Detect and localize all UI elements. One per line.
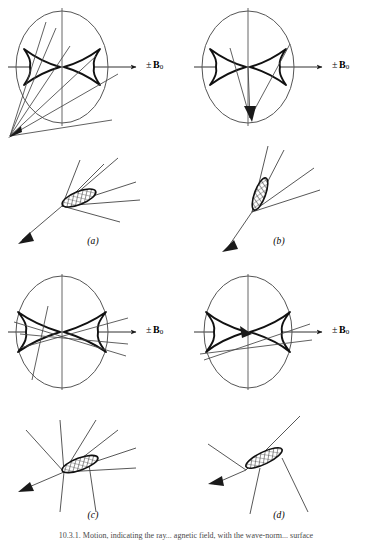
b-field-subscript: 0 [346,63,350,71]
lower-arrowhead [18,482,34,492]
panel-d: ±B0 (d) [186,262,372,517]
b-field-symbol: B [152,59,160,70]
cusp-lobe-left [24,49,60,85]
cusp-lobe-right [250,49,286,85]
axis-label-b0: ±B0 [332,60,349,71]
b-field-symbol: B [338,59,346,70]
b-field-subscript: 0 [346,328,350,336]
cusp-lobe-left [210,49,246,85]
panel-b-diagram [186,0,372,255]
hatched-ellipse [60,452,100,476]
panel-label-b: (b) [186,236,372,246]
lower-arrowhead [208,476,224,486]
axis-label-b0: ±B0 [146,325,163,336]
panel-label-d: (d) [186,510,372,520]
plus-minus-sign: ± [146,59,152,70]
axis-label-b0: ±B0 [332,325,349,336]
panel-a-diagram [0,0,186,255]
ray-fan-lower [226,146,320,250]
b-field-subscript: 0 [160,63,164,71]
panel-a: ±B0 (a) [0,0,186,255]
plus-minus-sign: ± [146,324,152,335]
panel-c-diagram [0,262,186,517]
panel-label-c: (c) [0,510,186,520]
axis-label-b0: ±B0 [146,60,163,71]
panel-b: ±B0 (b) [186,0,372,255]
hatched-ellipse [243,444,284,472]
figure-caption: 10.3.1. Motion, indicating the ray... ag… [0,531,372,541]
b-field-symbol: B [152,324,160,335]
b-field-subscript: 0 [160,328,164,336]
panel-c: ±B0 (c) [0,262,186,517]
cusp-lobe-right [64,49,100,85]
panel-d-diagram [186,262,372,517]
ray-fan-arrowhead [244,106,256,122]
plus-minus-sign: ± [332,59,338,70]
panel-label-a: (a) [0,236,186,246]
plus-minus-sign: ± [332,324,338,335]
b-field-symbol: B [338,324,346,335]
